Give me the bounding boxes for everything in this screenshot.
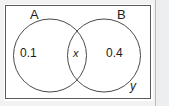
set-a-label: A <box>30 8 39 21</box>
outside-sets-value: y <box>130 80 136 92</box>
set-b-only-value: 0.4 <box>106 47 123 59</box>
intersection-value: x <box>73 48 79 59</box>
page-edge-gutter <box>155 0 169 106</box>
set-b-label: B <box>117 8 126 21</box>
set-a-only-value: 0.1 <box>20 47 37 59</box>
page-edge-rule <box>155 0 156 106</box>
venn-diagram: A B S 0.1 x 0.4 y <box>0 0 169 106</box>
